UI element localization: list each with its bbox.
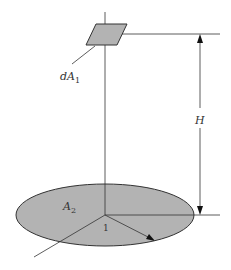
height-arrow-up-icon (197, 34, 203, 43)
da1-leader-line (72, 46, 95, 64)
height-arrow-down-icon (197, 206, 203, 215)
label-da1: dA1 (60, 70, 80, 85)
label-radius: 1 (103, 223, 109, 233)
element-da1 (86, 24, 127, 45)
label-h: H (194, 114, 205, 127)
view-factor-diagram: dA1 H A2 1 (0, 0, 231, 270)
